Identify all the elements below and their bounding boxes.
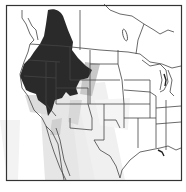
range-map-svg [0,0,186,192]
range-map [0,0,186,192]
